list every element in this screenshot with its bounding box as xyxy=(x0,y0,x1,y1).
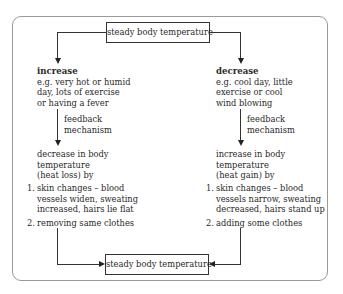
right-example-line: exercise or cool xyxy=(216,87,293,98)
step-number: 1. xyxy=(206,183,214,194)
feedback-line: mechanism xyxy=(247,125,295,136)
left-response-line: decrease in body xyxy=(37,149,108,160)
right-response-line: increase in body xyxy=(216,149,285,160)
left-feedback-line xyxy=(57,109,58,141)
left-example-line: day, lots of exercise xyxy=(37,87,130,98)
right-step-2: 2. adding some clothes xyxy=(206,218,343,229)
arrow-down-icon xyxy=(55,58,61,64)
feedback-line: feedback xyxy=(64,114,112,125)
right-step-1: 1. skin changes – blood vessels narrow, … xyxy=(206,183,343,215)
connector-top-right-horizontal xyxy=(210,32,241,33)
arrow-down-icon xyxy=(55,140,61,146)
left-example-line: e.g. very hot or humid xyxy=(37,77,130,88)
left-feedback-label: feedback mechanism xyxy=(64,114,112,135)
right-steps: 1. skin changes – blood vessels narrow, … xyxy=(206,180,343,228)
left-response-line: temperature xyxy=(37,160,108,171)
connector-top-right-vertical xyxy=(240,32,241,59)
connector-bottom-left-horizontal xyxy=(57,264,100,265)
step-line: adding some clothes xyxy=(216,218,343,229)
step-number: 2. xyxy=(27,218,35,229)
connector-top-left-horizontal xyxy=(57,32,106,33)
left-example-line: or having a fever xyxy=(37,98,130,109)
right-heading: decrease xyxy=(216,66,293,77)
right-example-line: e.g. cool day, little xyxy=(216,77,293,88)
right-feedback-line xyxy=(240,109,241,141)
connector-top-left-vertical xyxy=(57,32,58,59)
left-step-1: 1. skin changes – blood vessels widen, s… xyxy=(27,183,167,215)
right-feedback-label: feedback mechanism xyxy=(247,114,295,135)
left-heading: increase xyxy=(37,66,130,77)
step-line: skin changes – blood xyxy=(216,183,343,194)
connector-bottom-right-vertical xyxy=(240,228,241,265)
feedback-line: feedback xyxy=(247,114,295,125)
left-stimulus-block: increase e.g. very hot or humid day, lot… xyxy=(37,66,130,108)
top-steady-temperature-node: steady body temperature xyxy=(106,22,210,43)
arrow-down-icon xyxy=(238,140,244,146)
right-stimulus-block: decrease e.g. cool day, little exercise … xyxy=(216,66,293,108)
left-step-2: 2. removing same clothes xyxy=(27,218,167,229)
step-line: decreased, hairs stand up xyxy=(216,204,343,215)
left-steps: 1. skin changes – blood vessels widen, s… xyxy=(27,180,167,228)
step-line: skin changes – blood xyxy=(37,183,167,194)
step-line: vessels widen, sweating xyxy=(37,194,167,205)
right-response-line: temperature xyxy=(216,160,285,171)
connector-bottom-right-horizontal xyxy=(215,264,241,265)
connector-bottom-left-vertical xyxy=(57,228,58,265)
step-line: vessels narrow, sweating xyxy=(216,194,343,205)
step-number: 2. xyxy=(206,218,214,229)
right-example-line: wind blowing xyxy=(216,98,293,109)
bottom-steady-temperature-node: steady body temperature xyxy=(105,254,209,275)
step-line: removing same clothes xyxy=(37,218,167,229)
right-response-block: increase in body temperature (heat gain)… xyxy=(216,149,285,181)
step-line: increased, hairs lie flat xyxy=(37,204,167,215)
left-response-block: decrease in body temperature (heat loss)… xyxy=(37,149,108,181)
arrow-down-icon xyxy=(238,58,244,64)
feedback-line: mechanism xyxy=(64,125,112,136)
step-number: 1. xyxy=(27,183,35,194)
